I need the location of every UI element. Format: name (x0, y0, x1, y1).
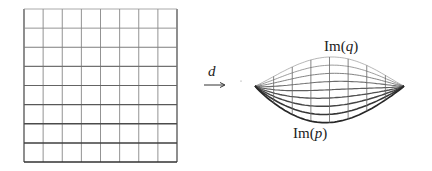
image-p-label-prefix: Im( (293, 125, 315, 141)
map-arrow (204, 83, 225, 88)
image-q-label-suffix: ) (353, 38, 358, 54)
domain-grid (24, 9, 177, 162)
image-q-label-prefix: Im( (324, 38, 346, 54)
stray-dot (240, 80, 241, 81)
image-q-label: Im(q) (324, 38, 358, 55)
image-p-label: Im(p) (293, 125, 327, 142)
map-label-d: d (208, 63, 216, 80)
image-lens-grid (255, 57, 404, 123)
image-p-label-suffix: ) (322, 125, 327, 141)
diagram-canvas (0, 0, 432, 171)
